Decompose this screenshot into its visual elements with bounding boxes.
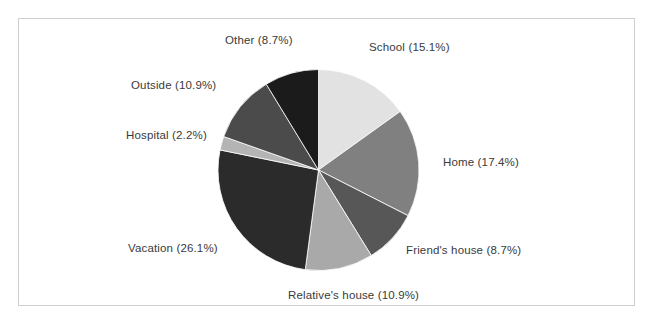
slice-label-friends-house: Friend's house (8.7%) — [406, 243, 521, 257]
pie-slice-vacation — [218, 150, 319, 270]
slice-label-other: Other (8.7%) — [225, 33, 293, 47]
slice-label-outside: Outside (10.9%) — [131, 78, 216, 92]
slice-label-school: School (15.1%) — [369, 40, 450, 54]
slice-label-vacation: Vacation (26.1%) — [128, 241, 218, 255]
pie-plot-area: Other (8.7%) School (15.1%) Outside (10.… — [0, 0, 652, 329]
pie-chart-figure: Other (8.7%) School (15.1%) Outside (10.… — [0, 0, 652, 329]
pie-svg — [0, 0, 652, 329]
slice-label-hospital: Hospital (2.2%) — [126, 128, 207, 142]
pie-slice-group — [218, 69, 419, 270]
slice-label-home: Home (17.4%) — [443, 155, 519, 169]
slice-label-relatives-house: Relative's house (10.9%) — [288, 288, 419, 302]
